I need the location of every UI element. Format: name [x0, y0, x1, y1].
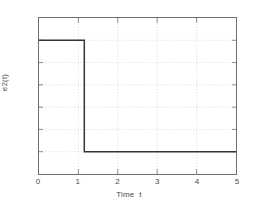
figure: 0.6 0.5 0.4 0.3 0.2 0.1 0 -0.1 0 1 2 3 4… — [0, 0, 258, 214]
xtick-label-2: 2 — [108, 177, 128, 186]
y-axis-label: e2(t) — [0, 74, 9, 91]
xtick-label-3: 3 — [147, 177, 167, 186]
xtick-label-5: 5 — [227, 177, 247, 186]
tick-marks — [39, 18, 236, 174]
plot-area — [38, 17, 237, 175]
xtick-label-1: 1 — [68, 177, 88, 186]
xtick-label-4: 4 — [187, 177, 207, 186]
grid-lines — [39, 18, 236, 174]
x-axis-label: Time t — [0, 190, 258, 199]
xtick-label-0: 0 — [28, 177, 48, 186]
step-curve — [39, 40, 236, 151]
data-series-e2t — [39, 18, 236, 174]
